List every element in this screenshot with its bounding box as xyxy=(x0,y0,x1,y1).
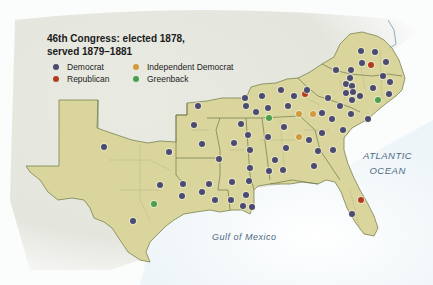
title-line-2: served 1879–1881 xyxy=(47,45,185,58)
district-dot-icon xyxy=(340,127,346,133)
district-dot-icon xyxy=(199,189,205,195)
district-dot-icon xyxy=(380,73,386,79)
district-dot-icon xyxy=(296,134,302,140)
district-dot-icon xyxy=(238,121,244,127)
district-dot-icon xyxy=(296,111,302,117)
district-dot-icon xyxy=(265,134,271,140)
district-dot-icon xyxy=(383,59,389,65)
district-dot-icon xyxy=(347,75,353,81)
district-dot-icon xyxy=(349,97,355,103)
atlantic-line-1: ATLANTIC xyxy=(363,148,412,163)
gulf-of-mexico-label: Gulf of Mexico xyxy=(212,232,277,242)
district-dot-icon xyxy=(375,97,381,103)
district-dot-icon xyxy=(350,89,356,95)
district-dot-icon xyxy=(272,157,278,163)
legend-item-democrat: Democrat xyxy=(53,62,104,72)
district-dot-icon xyxy=(130,218,136,224)
district-dot-icon xyxy=(365,116,371,122)
map-stage: 46th Congress: elected 1878, served 1879… xyxy=(0,0,433,285)
district-dot-icon xyxy=(253,109,259,115)
district-dot-icon xyxy=(283,145,289,151)
district-dot-icon xyxy=(348,67,354,73)
legend-item-republican: Republican xyxy=(53,74,110,84)
district-dot-icon xyxy=(386,91,392,97)
district-dot-icon xyxy=(387,79,393,85)
district-dot-icon xyxy=(325,95,331,101)
district-dot-icon xyxy=(311,163,317,169)
republican-dot-icon xyxy=(53,76,59,82)
district-dot-icon xyxy=(310,111,316,117)
district-dot-icon xyxy=(285,103,291,109)
atlantic-ocean-label: ATLANTIC OCEAN xyxy=(363,148,412,178)
district-dot-icon xyxy=(349,211,355,217)
legend-label: Greenback xyxy=(147,74,189,84)
district-dot-icon xyxy=(231,140,237,146)
district-dot-icon xyxy=(240,203,246,209)
district-dot-icon xyxy=(179,193,185,199)
district-dot-icon xyxy=(291,93,297,99)
district-dot-icon xyxy=(212,197,218,203)
district-dot-icon xyxy=(195,103,201,109)
district-dot-icon xyxy=(337,103,343,109)
district-dot-icon xyxy=(243,192,249,198)
legend-label: Democrat xyxy=(67,62,104,72)
district-dot-icon xyxy=(101,144,107,150)
district-dot-icon xyxy=(330,147,336,153)
district-dot-icon xyxy=(329,116,335,122)
district-dot-icon xyxy=(319,110,325,116)
district-dot-icon xyxy=(315,148,321,154)
district-dot-icon xyxy=(249,204,255,210)
district-dot-icon xyxy=(229,179,235,185)
district-dot-icon xyxy=(259,93,265,99)
district-dot-icon xyxy=(216,156,222,162)
district-dot-icon xyxy=(357,93,363,99)
district-dot-icon xyxy=(333,67,339,73)
district-dot-icon xyxy=(266,168,272,174)
map-title: 46th Congress: elected 1878, served 1879… xyxy=(47,32,185,58)
district-dot-icon xyxy=(358,48,364,54)
legend-item-independent-democrat: Independent Democrat xyxy=(133,62,233,72)
district-dot-icon xyxy=(243,103,249,109)
district-dot-icon xyxy=(206,181,212,187)
district-dot-icon xyxy=(281,124,287,130)
independent-democrat-dot-icon xyxy=(133,64,139,70)
district-dot-icon xyxy=(265,105,271,111)
district-dot-icon xyxy=(166,149,172,155)
district-dot-icon xyxy=(343,90,349,96)
district-dot-icon xyxy=(306,137,312,143)
district-dot-icon xyxy=(370,85,376,91)
legend-label: Republican xyxy=(67,74,110,84)
district-dot-icon xyxy=(278,87,284,93)
district-dot-icon xyxy=(245,132,251,138)
district-dot-icon xyxy=(319,130,325,136)
district-dot-icon xyxy=(359,60,365,66)
district-dot-icon xyxy=(247,147,253,153)
district-dot-icon xyxy=(372,49,378,55)
district-dot-icon xyxy=(280,167,286,173)
district-dot-icon xyxy=(368,62,374,68)
democrat-dot-icon xyxy=(53,64,59,70)
district-dot-icon xyxy=(228,197,234,203)
title-line-1: 46th Congress: elected 1878, xyxy=(47,32,185,45)
district-dot-icon xyxy=(199,141,205,147)
district-dot-icon xyxy=(348,111,354,117)
district-dot-icon xyxy=(246,178,252,184)
atlantic-line-2: OCEAN xyxy=(363,163,412,178)
district-dot-icon xyxy=(151,201,157,207)
district-dot-icon xyxy=(358,197,364,203)
district-dot-icon xyxy=(247,165,253,171)
legend-label: Independent Democrat xyxy=(147,62,233,72)
legend-item-greenback: Greenback xyxy=(133,74,189,84)
district-dot-icon xyxy=(180,181,186,187)
district-dot-icon xyxy=(304,87,310,93)
district-dot-icon xyxy=(242,95,248,101)
district-dot-icon xyxy=(266,115,272,121)
greenback-dot-icon xyxy=(133,76,139,82)
district-dot-icon xyxy=(157,182,163,188)
district-dot-icon xyxy=(191,122,197,128)
